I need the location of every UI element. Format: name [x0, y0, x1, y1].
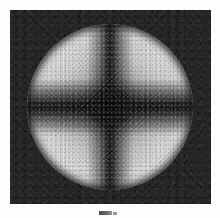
melatope-center-spot	[87, 87, 133, 127]
figure-caption: Fig.	[99, 209, 121, 216]
figure-root: Fig.	[0, 0, 220, 218]
interference-disk	[27, 24, 193, 190]
image-panel	[10, 10, 211, 204]
